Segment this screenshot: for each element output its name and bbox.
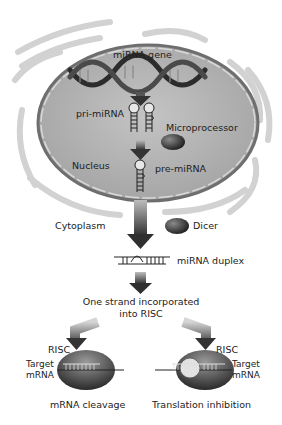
label-nucleus: Nucleus [72,161,110,171]
label-pri-mirna: pri-miRNA [76,109,124,119]
label-one-strand-line1: One strand incorporated [60,297,222,307]
label-target-left-1: Target [26,360,54,369]
label-cytoplasm: Cytoplasm [55,221,106,231]
label-target-left-2: mRNA [26,371,54,380]
risc-left-icon [57,350,124,390]
arrow-loading [129,272,152,294]
label-mirna-gene: miRNA gene [113,50,172,60]
branch-arrows [66,322,216,350]
label-microprocessor: Microprocessor [166,123,238,133]
label-risc-left: RISC [48,345,70,355]
label-mrna-cleavage: mRNA cleavage [50,400,125,410]
label-risc-right: RISC [216,345,238,355]
dicer-icon [165,218,189,234]
label-pre-mirna: pre-miRNA [155,164,206,174]
label-dicer: Dicer [193,221,218,231]
mirna-duplex-icon [114,256,170,264]
label-translation-inhibition: Translation inhibition [152,400,251,410]
label-one-strand-line2: into RISC [60,309,222,319]
microprocessor-icon [161,134,185,150]
label-target-right-2: mRNA [232,371,260,380]
risc-right-icon [155,350,234,390]
arrow-export [127,200,154,249]
label-mirna-duplex: miRNA duplex [177,256,244,266]
label-target-right-1: Target [232,360,260,369]
